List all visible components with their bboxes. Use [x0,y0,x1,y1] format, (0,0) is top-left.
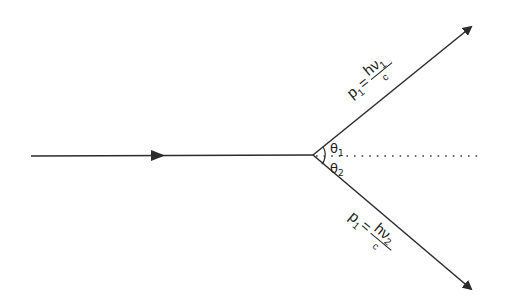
upper-scattered-ray [313,27,471,155]
scattering-diagram: θ1 θ2 p1= hν1 c p1= hν2 c [0,0,507,302]
svg-text:c: c [371,240,382,252]
svg-text:c: c [379,71,390,83]
theta1-label: θ1 [330,141,344,158]
incoming-ray [31,155,313,156]
theta1-arc [323,147,325,156]
upper-momentum-label: p1= hν1 c [339,49,400,106]
lower-momentum-label: p1= hν2 c [342,202,403,260]
theta2-arc [322,156,325,164]
incoming-arrow-icon [151,150,165,161]
theta2-label: θ2 [330,161,344,178]
